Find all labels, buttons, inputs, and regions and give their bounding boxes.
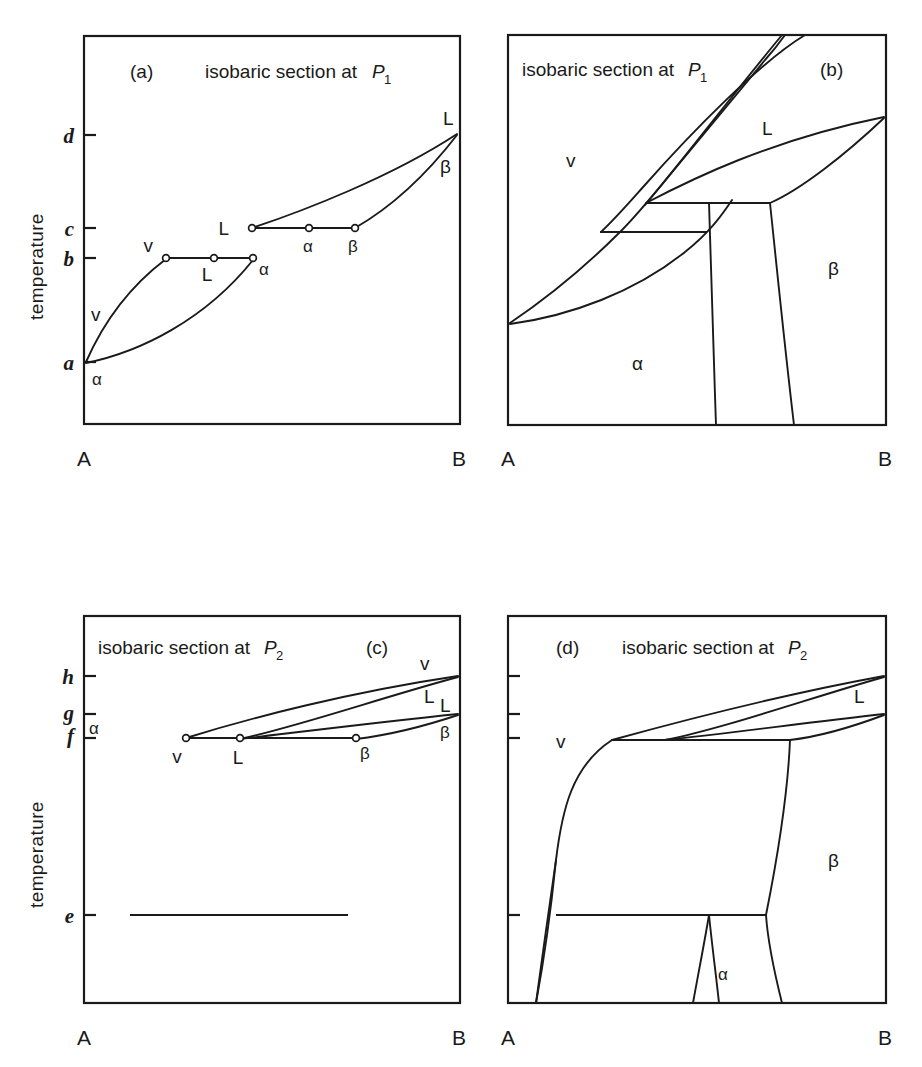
- plot-frame-c: [84, 616, 460, 1003]
- tick-label-h: h: [62, 665, 74, 689]
- phase-label-b-v: v: [566, 150, 576, 171]
- phase-label-c-L-upper: L: [424, 686, 435, 707]
- panel-title-d: isobaric section at: [622, 637, 775, 658]
- panel-b-plot: isobaric section at P 1 (b) v L β α: [460, 0, 922, 500]
- panel-title-c-subscript: 2: [276, 648, 283, 663]
- tick-label-e: e: [65, 904, 74, 928]
- phase-label-a-beta-mid: β: [348, 237, 358, 256]
- panel-a: temperature d c b a (a) isobaric section…: [0, 0, 470, 500]
- plot-frame-b: [508, 35, 886, 425]
- phase-label-a-L-top: L: [443, 108, 454, 129]
- phase-label-a-alpha-tie: α: [259, 260, 269, 279]
- panel-title-a: isobaric section at: [205, 61, 358, 82]
- phase-label-c-v-node: v: [172, 746, 182, 767]
- panel-d: (d) isobaric section at P 2: [460, 560, 922, 1067]
- curve-a-liquidus: [252, 134, 457, 228]
- phase-label-a-v-left: v: [91, 304, 101, 325]
- tie-node-b-right: [250, 255, 257, 262]
- panel-title-b-subscript: 1: [700, 70, 707, 85]
- curve-b-alpha-solvus: [510, 200, 732, 324]
- curve-d-beta-left: [766, 740, 790, 915]
- tie-node-c-right: [352, 225, 359, 232]
- tick-label-b: b: [64, 247, 75, 271]
- panel-a-plot: d c b a (a) isobaric section at P 1: [0, 0, 470, 500]
- panel-d-plot: (d) isobaric section at P 2: [460, 560, 922, 1067]
- phase-label-d-beta: β: [828, 850, 839, 871]
- plot-frame-a: [84, 36, 460, 424]
- axis-endpoint-b-left: A: [501, 447, 515, 470]
- tie-node-f-beta: [353, 735, 360, 742]
- panel-b: isobaric section at P 1 (b) v L β α: [460, 0, 922, 500]
- phase-label-c-beta-node: β: [360, 744, 370, 763]
- phase-label-c-alpha-axis: α: [89, 719, 99, 738]
- curve-d-alpha-right: [709, 915, 719, 1003]
- phase-label-b-beta: β: [828, 258, 839, 279]
- panel-tag-a: (a): [130, 61, 153, 82]
- curve-d-alpha-left: [693, 915, 709, 1003]
- panel-c-plot: h g f e isobaric section at P 2 (c) α: [0, 560, 470, 1067]
- phase-label-c-L-lower: L: [440, 695, 451, 716]
- phase-label-c-beta-right: β: [440, 723, 450, 742]
- panel-tag-c: (c): [366, 637, 388, 658]
- panel-c: temperature h g f e isobaric section at …: [0, 560, 470, 1067]
- panel-tag-b: (b): [820, 59, 843, 80]
- tie-node-c-mid: [306, 225, 313, 232]
- phase-label-a-v-tie: v: [144, 235, 154, 256]
- axis-endpoint-c-left: A: [77, 1026, 91, 1049]
- phase-label-b-L: L: [762, 118, 773, 139]
- curve-b-beta-right-edge: [770, 203, 794, 425]
- tick-label-d: d: [64, 124, 75, 148]
- curve-c-liquidus-lower: [240, 714, 458, 739]
- tick-label-f: f: [67, 724, 76, 748]
- phase-label-a-L-mid: L: [218, 218, 229, 239]
- phase-label-b-alpha: α: [632, 353, 643, 374]
- curve-d-liquidus-upper: [665, 677, 884, 740]
- tie-node-b-left: [163, 255, 170, 262]
- y-axis-label-c: temperature: [26, 801, 48, 908]
- axis-endpoint-a-left: A: [77, 447, 91, 470]
- phase-label-c-L-node: L: [233, 747, 244, 768]
- tie-node-b-mid: [211, 255, 218, 262]
- panel-tag-d: (d): [556, 637, 579, 658]
- curve-b-beta-left-edge: [709, 203, 716, 425]
- panel-title-b: isobaric section at: [522, 59, 675, 80]
- tick-label-c: c: [65, 217, 75, 241]
- panel-title-a-subscript: 1: [384, 72, 391, 87]
- tie-node-f-v: [183, 735, 190, 742]
- tie-node-f-L: [237, 735, 244, 742]
- phase-label-a-alpha-mid: α: [303, 237, 313, 256]
- phase-label-d-L: L: [854, 686, 865, 707]
- panel-title-d-subscript: 2: [800, 648, 807, 663]
- tick-label-g: g: [63, 701, 75, 725]
- phase-label-a-alpha-left: α: [92, 370, 102, 389]
- tick-label-a: a: [64, 351, 75, 375]
- phase-diagram-figure: temperature d c b a (a) isobaric section…: [0, 0, 922, 1067]
- curve-d-beta-right: [766, 915, 782, 1003]
- curve-a-alpha-solidus: [86, 260, 253, 363]
- y-axis-label-a: temperature: [26, 213, 48, 320]
- panel-title-c: isobaric section at: [98, 637, 251, 658]
- axis-endpoint-b-right: B: [878, 447, 892, 470]
- phase-label-d-alpha: α: [718, 965, 728, 984]
- tie-node-c-left: [249, 225, 256, 232]
- axis-endpoint-d-left: A: [501, 1026, 515, 1049]
- phase-label-c-v-top: v: [420, 653, 430, 674]
- phase-label-d-v: v: [556, 731, 566, 752]
- phase-label-a-L-low: L: [202, 264, 213, 285]
- curve-d-vapour-boundary: [536, 740, 612, 1003]
- phase-label-a-beta-right: β: [440, 156, 451, 177]
- axis-endpoint-d-right: B: [878, 1026, 892, 1049]
